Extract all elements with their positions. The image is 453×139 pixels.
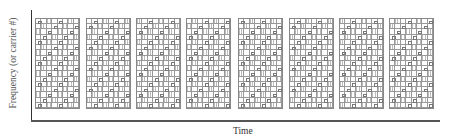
ofdm-block — [86, 18, 131, 109]
grid-cell — [225, 103, 230, 108]
y-axis-label: Frequency (or carrier #) — [8, 8, 18, 118]
grid-cell — [428, 103, 433, 108]
grid-cell — [378, 103, 383, 108]
ofdm-block — [289, 18, 334, 109]
grid-cell — [74, 103, 79, 108]
ofdm-block — [238, 18, 283, 109]
x-axis-label: Time — [233, 126, 253, 136]
ofdm-block — [389, 18, 434, 109]
grid-cell — [125, 103, 130, 108]
ofdm-block — [136, 18, 181, 109]
y-axis — [31, 10, 32, 121]
ofdm-block — [35, 18, 80, 109]
grid-cell — [175, 103, 180, 108]
grid-cell — [328, 103, 333, 108]
grid-cell — [277, 103, 282, 108]
x-axis — [31, 120, 440, 122]
ofdm-block — [339, 18, 384, 109]
ofdm-block — [186, 18, 231, 109]
